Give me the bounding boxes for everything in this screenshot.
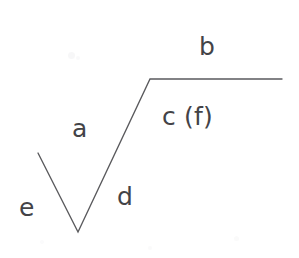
label-e: e <box>19 195 35 220</box>
label-d: d <box>117 184 133 209</box>
segment-polyline <box>38 79 282 232</box>
label-a: a <box>72 116 88 141</box>
figure-canvas: b c (f) a d e <box>0 0 299 258</box>
label-c-f: c (f) <box>162 104 213 129</box>
label-b: b <box>199 34 215 59</box>
diagram-svg <box>0 0 299 258</box>
